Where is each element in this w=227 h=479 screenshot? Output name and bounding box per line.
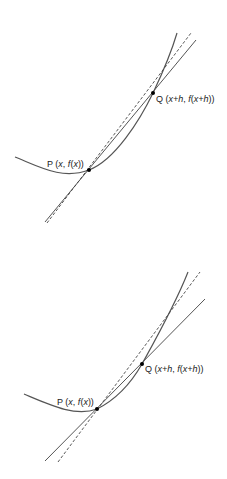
secant-tangent-diagram: P (x, f(x)) Q (x+h, f(x+h)) P (x, f(x)) … <box>0 0 227 479</box>
point-q <box>151 91 155 95</box>
secant-line-pq <box>45 299 205 461</box>
point-q <box>140 362 144 366</box>
point-p <box>95 407 99 411</box>
label-q: Q (x+h, f(x+h)) <box>145 364 204 374</box>
label-p: P (x, f(x)) <box>57 397 94 407</box>
figure-bottom: P (x, f(x)) Q (x+h, f(x+h)) <box>24 272 205 462</box>
label-p: P (x, f(x)) <box>47 159 84 169</box>
figure-top: P (x, f(x)) Q (x+h, f(x+h)) <box>15 33 215 223</box>
point-p <box>87 168 91 172</box>
label-q: Q (x+h, f(x+h)) <box>156 94 215 104</box>
secant-line-pq <box>45 40 196 222</box>
tangent-line-at-p <box>47 33 191 223</box>
curve-f <box>15 33 177 174</box>
